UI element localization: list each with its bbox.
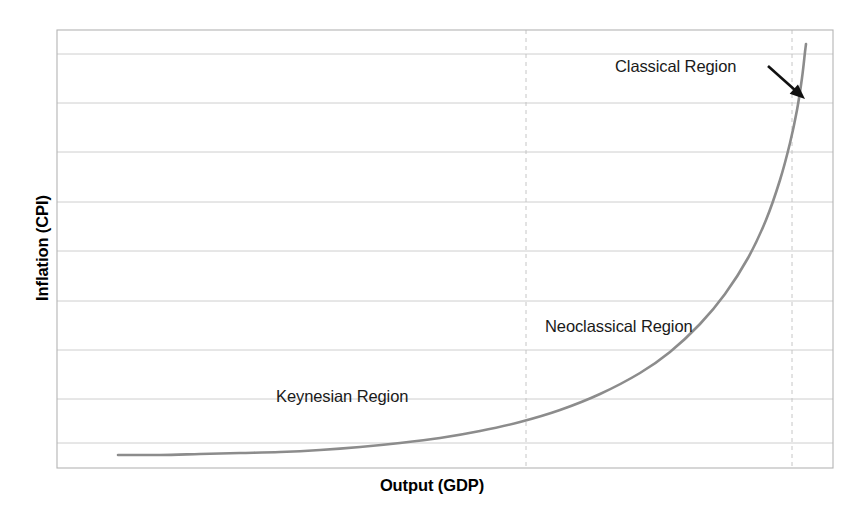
- keynesian-region-label: Keynesian Region: [276, 388, 408, 405]
- plot-frame: [57, 30, 833, 468]
- plot-frame-rect: [57, 30, 833, 468]
- curve-line-0: [118, 44, 806, 455]
- aggregate-supply-chart-figure: Classical Region Neoclassical Region Key…: [0, 0, 864, 523]
- horizontal-gridlines: [57, 54, 833, 443]
- classical-region-arrow: [768, 66, 805, 99]
- aggregate-supply-curve: [118, 44, 806, 455]
- neoclassical-region-label: Neoclassical Region: [545, 318, 693, 335]
- chart-canvas: [0, 0, 864, 523]
- y-axis-title: Inflation (CPI): [34, 118, 51, 378]
- x-axis-title: Output (GDP): [0, 477, 864, 494]
- classical-region-label: Classical Region: [615, 58, 736, 75]
